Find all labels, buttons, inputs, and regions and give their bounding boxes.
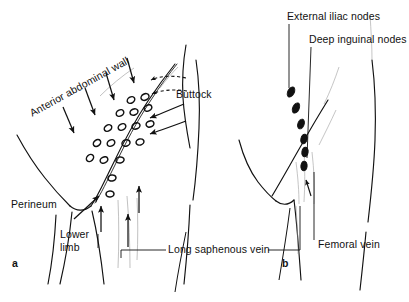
panel-a-perineum-arrow [74,196,99,219]
panel-a-saphenous-leader [121,250,166,258]
panel-id-a: a [12,257,18,269]
panel-a-buttock-arrows [150,104,186,134]
label-deep-inguinal-nodes: Deep inguinal nodes [309,34,407,46]
label-femoral-vein: Femoral vein [318,239,380,251]
label-perineum: Perineum [11,199,57,211]
label-lower-limb-line1: Lower [60,229,89,241]
label-long-saphenous-vein: Long saphenous vein [168,244,270,256]
panel-a-lymph-nodes [85,92,155,197]
panel-b-body-outline [239,60,375,290]
label-buttock: Buttock [176,89,212,101]
label-lower-limb-line2: limb [60,242,80,254]
panel-id-b: b [282,257,288,269]
panel-b-lymph-nodes [286,86,309,171]
label-external-iliac-nodes: External iliac nodes [287,11,380,23]
panel-b-long-saphenous-vein-line [279,208,290,280]
panel-b-deep-ascending-arrow [306,180,311,196]
